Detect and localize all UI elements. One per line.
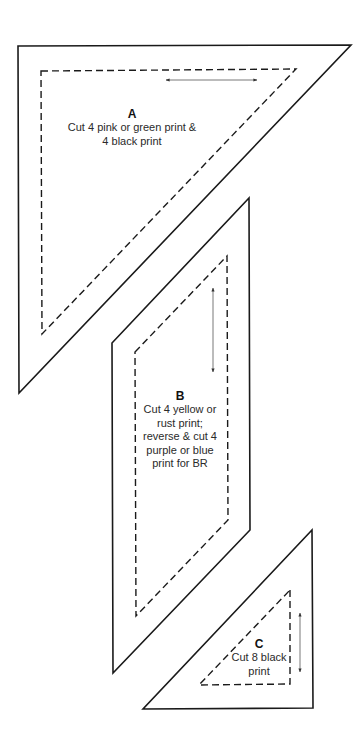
piece-c-label: C Cut 8 black print [231, 637, 286, 678]
piece-a [18, 45, 351, 393]
piece-b-instruction-line: rust print; [143, 417, 217, 431]
piece-a-letter: A [68, 107, 196, 121]
piece-a-instruction-line: 4 black print [68, 135, 196, 149]
piece-b-instruction-line: purple or blue [143, 444, 217, 458]
piece-b-instruction-line: reverse & cut 4 [143, 430, 217, 444]
piece-c-instruction-line: print [231, 665, 286, 679]
piece-b-instruction-line: Cut 4 yellow or [143, 403, 217, 417]
piece-c [143, 530, 313, 709]
piece-a-cutting-line [18, 45, 351, 393]
piece-c-instruction-line: Cut 8 black [231, 651, 286, 665]
piece-b-label: B Cut 4 yellow or rust print; reverse & … [143, 389, 217, 471]
piece-b-instruction-line: print for BR [143, 457, 217, 471]
piece-a-instruction-line: Cut 4 pink or green print & [68, 121, 196, 135]
piece-a-label: A Cut 4 pink or green print & 4 black pr… [68, 107, 196, 148]
piece-c-cutting-line [143, 530, 313, 709]
piece-c-letter: C [231, 637, 286, 651]
piece-b-letter: B [143, 389, 217, 403]
